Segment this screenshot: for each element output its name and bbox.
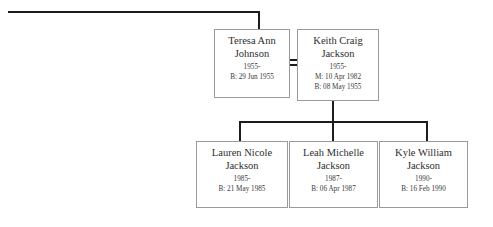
child-connector-kyle (426, 121, 428, 142)
person-lifespan: 1987- (290, 174, 377, 184)
person-box-teresa-ann-johnson[interactable]: Teresa Ann Johnson 1955- B: 29 Jun 1955 (214, 29, 290, 98)
person-name-line2: Jackson (197, 159, 287, 172)
person-lifespan: 1955- (298, 62, 378, 72)
person-name-line2: Jackson (380, 159, 467, 172)
person-marriage-date: M: 10 Apr 1982 (298, 72, 378, 82)
person-name-line1: Keith Craig (298, 34, 378, 47)
child-connector-leah (332, 121, 334, 142)
child-connector-lauren (239, 121, 241, 142)
person-name-line2: Johnson (215, 47, 289, 60)
person-name-line1: Leah Michelle (290, 146, 377, 159)
person-birth-date: B: 29 Jun 1955 (215, 72, 289, 82)
person-birth-date: B: 16 Feb 1990 (380, 184, 467, 194)
person-birth-date: B: 08 May 1955 (298, 82, 378, 92)
ancestor-connector-vertical (258, 11, 260, 30)
person-box-lauren-nicole-jackson[interactable]: Lauren Nicole Jackson 1985- B: 21 May 19… (196, 141, 288, 208)
person-lifespan: 1990- (380, 174, 467, 184)
person-birth-date: B: 06 Apr 1987 (290, 184, 377, 194)
person-box-leah-michelle-jackson[interactable]: Leah Michelle Jackson 1987- B: 06 Apr 19… (289, 141, 378, 208)
person-lifespan: 1985- (197, 174, 287, 184)
person-box-kyle-william-jackson[interactable]: Kyle William Jackson 1990- B: 16 Feb 199… (379, 141, 468, 208)
person-name-line1: Lauren Nicole (197, 146, 287, 159)
person-name-line2: Jackson (298, 47, 378, 60)
family-tree-chart: Teresa Ann Johnson 1955- B: 29 Jun 1955 … (0, 0, 493, 227)
ancestor-connector-horizontal (8, 11, 260, 13)
person-box-keith-craig-jackson[interactable]: Keith Craig Jackson 1955- M: 10 Apr 1982… (297, 29, 379, 101)
person-name-line2: Jackson (290, 159, 377, 172)
person-lifespan: 1955- (215, 62, 289, 72)
person-name-line1: Kyle William (380, 146, 467, 159)
person-name-line1: Teresa Ann (215, 34, 289, 47)
descent-connector (332, 100, 334, 123)
person-birth-date: B: 21 May 1985 (197, 184, 287, 194)
